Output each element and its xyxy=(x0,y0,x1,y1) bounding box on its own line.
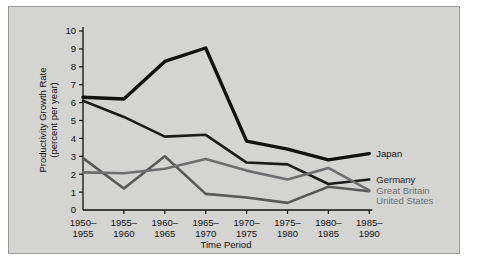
x-category-label-bottom: 1970 xyxy=(195,228,216,239)
y-tick-label: 4 xyxy=(71,133,76,144)
legend-label-united-states: United States xyxy=(376,195,433,206)
x-category-label-bottom: 1955 xyxy=(72,228,93,239)
y-tick-label: 7 xyxy=(71,79,76,90)
x-category-label-top: 1985– xyxy=(356,217,383,228)
series-line-japan xyxy=(83,48,369,160)
x-category-label-bottom: 1990 xyxy=(359,228,380,239)
x-category-label-top: 1960– xyxy=(152,217,179,228)
legend-label-germany: Germany xyxy=(376,174,415,185)
series-line-germany xyxy=(83,101,369,184)
y-axis-title-line2: (percent per year) xyxy=(48,82,59,158)
x-category-label-top: 1950– xyxy=(70,217,97,228)
y-axis-title: Productivity Growth Rate (percent per ye… xyxy=(37,67,59,172)
line-chart-svg: Productivity Growth Rate (percent per ye… xyxy=(0,0,478,268)
x-axis-category-labels: 1950–19551955–19601960–19651965–19701970… xyxy=(70,217,383,239)
y-tick-label: 0 xyxy=(71,204,76,215)
x-category-label-top: 1975– xyxy=(274,217,301,228)
x-category-label-bottom: 1975 xyxy=(236,228,257,239)
y-axis-title-line1: Productivity Growth Rate xyxy=(37,67,48,172)
x-category-label-bottom: 1985 xyxy=(318,228,339,239)
series-lines xyxy=(83,48,369,203)
x-category-label-top: 1965– xyxy=(192,217,219,228)
legend-label-japan: Japan xyxy=(376,148,402,159)
x-category-label-top: 1955– xyxy=(111,217,138,228)
y-tick-label: 8 xyxy=(71,61,76,72)
legend-label-great-britain: Great Britain xyxy=(376,185,429,196)
y-tick-label: 3 xyxy=(71,151,76,162)
y-axis-ticks: 012345678910 xyxy=(65,25,83,215)
x-category-label-bottom: 1960 xyxy=(113,228,134,239)
series-line-great-britain xyxy=(83,156,369,203)
y-tick-label: 10 xyxy=(65,25,76,36)
x-axis-title: Time Period xyxy=(201,239,252,250)
x-category-label-top: 1970– xyxy=(233,217,260,228)
y-tick-label: 2 xyxy=(71,169,76,180)
chart-legend: JapanGermanyGreat BritainUnited States xyxy=(376,148,433,206)
chart-figure: Productivity Growth Rate (percent per ye… xyxy=(0,0,478,268)
x-category-label-bottom: 1980 xyxy=(277,228,298,239)
x-category-label-top: 1980– xyxy=(315,217,342,228)
y-tick-label: 6 xyxy=(71,97,76,108)
y-tick-label: 9 xyxy=(71,43,76,54)
x-category-label-bottom: 1965 xyxy=(154,228,175,239)
y-tick-label: 1 xyxy=(71,187,76,198)
y-tick-label: 5 xyxy=(71,115,76,126)
